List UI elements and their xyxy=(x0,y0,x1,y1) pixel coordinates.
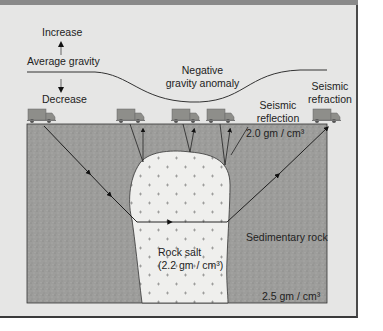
sedimentary-rock-label: Sedimentary rock xyxy=(246,231,328,244)
seismic-reflection-label: Seismic reflection xyxy=(248,99,308,125)
average-gravity-label: Average gravity xyxy=(27,55,100,68)
truck-icon xyxy=(116,109,145,123)
truck-icon xyxy=(206,109,235,123)
truck-icon xyxy=(171,109,200,123)
increase-label: Increase xyxy=(42,26,82,39)
truck-icon xyxy=(27,109,56,123)
decrease-label: Decrease xyxy=(42,93,87,106)
upper-density-label: 2.0 gm / cm³ xyxy=(246,127,304,140)
seismic-refraction-label: Seismic refraction xyxy=(300,80,360,106)
diagram-svg xyxy=(0,0,383,331)
rock-salt-label: Rock salt (2.2 gm / cm³) xyxy=(158,246,223,272)
salt-dome xyxy=(130,151,230,303)
lower-density-label: 2.5 gm / cm³ xyxy=(262,290,320,303)
anomaly-label: Negative gravity anomaly xyxy=(160,64,245,90)
truck-icon xyxy=(312,109,341,123)
